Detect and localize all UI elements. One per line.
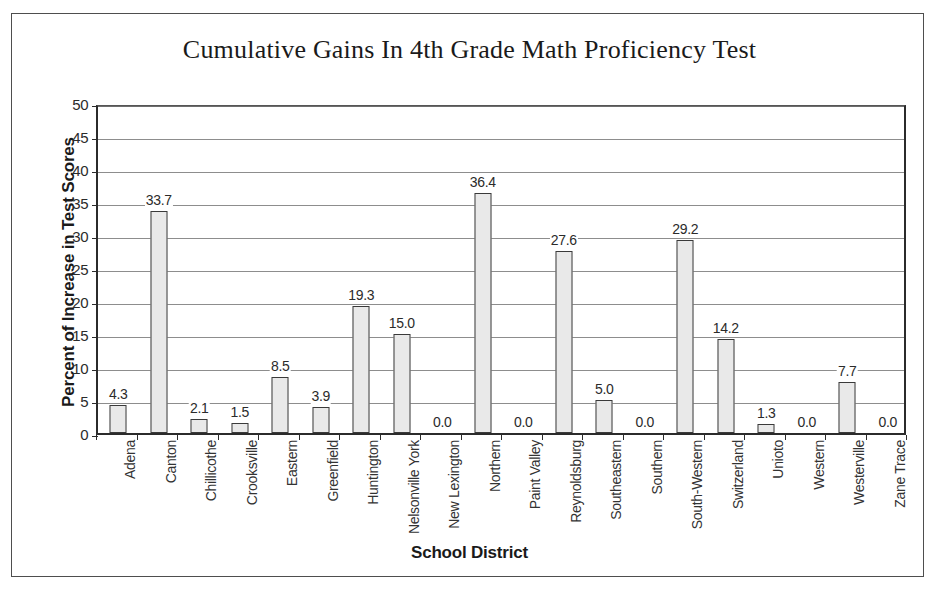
bar-group[interactable]: 0.0: [625, 106, 666, 433]
y-axis-tick-label: 25: [44, 261, 88, 278]
bar-value-label: 5.0: [594, 381, 615, 397]
bar-value-label: 36.4: [469, 174, 497, 190]
x-axis-category-label: New Lexington: [446, 440, 462, 560]
bar-group[interactable]: 5.0: [584, 106, 625, 433]
bar[interactable]: [474, 193, 491, 433]
x-axis-tick: [299, 435, 300, 440]
bar-group[interactable]: 1.5: [220, 106, 261, 433]
x-axis-category-label: Westerville: [851, 440, 867, 560]
bar-group[interactable]: 4.3: [98, 106, 139, 433]
x-axis-tick: [866, 435, 867, 440]
bar-value-label: 0.0: [432, 414, 453, 430]
y-axis-tick-label: 15: [44, 327, 88, 344]
x-axis-category-label: Chillicothe: [203, 440, 219, 560]
bar-value-label: 1.5: [229, 404, 250, 420]
x-axis-tick: [96, 435, 97, 440]
x-axis-tick: [542, 435, 543, 440]
x-axis-tick: [461, 435, 462, 440]
bar-group[interactable]: 29.2: [665, 106, 706, 433]
x-axis-tick: [623, 435, 624, 440]
y-axis-tick-label: 35: [44, 195, 88, 212]
bar[interactable]: [393, 334, 410, 433]
chart-title: Cumulative Gains In 4th Grade Math Profi…: [0, 35, 939, 65]
y-axis-tick-label: 50: [44, 96, 88, 113]
bar-value-label: 19.3: [347, 287, 375, 303]
x-axis-category-label: Southern: [649, 440, 665, 560]
y-axis-tick-label: 5: [44, 393, 88, 410]
x-axis-category-label: Reynoldsburg: [568, 440, 584, 560]
x-axis-category-label: Canton: [163, 440, 179, 560]
bar-group[interactable]: 3.9: [301, 106, 342, 433]
bar[interactable]: [312, 407, 329, 433]
bar-group[interactable]: 0.0: [868, 106, 909, 433]
bar[interactable]: [191, 419, 208, 433]
x-axis-tick: [744, 435, 745, 440]
x-axis-category-label: Adena: [122, 440, 138, 560]
bar-group[interactable]: 33.7: [139, 106, 180, 433]
x-axis-category-label: Southeastern: [608, 440, 624, 560]
bar-value-label: 15.0: [388, 315, 416, 331]
x-axis-category-label: Crooksville: [244, 440, 260, 560]
bar-value-label: 14.2: [712, 320, 740, 336]
bar-group[interactable]: 15.0: [382, 106, 423, 433]
bar-value-label: 27.6: [550, 232, 578, 248]
bar[interactable]: [839, 382, 856, 433]
bar-group[interactable]: 36.4: [463, 106, 504, 433]
bar-group[interactable]: 2.1: [179, 106, 220, 433]
bar-value-label: 29.2: [671, 221, 699, 237]
plot-area: 4.333.72.11.58.53.919.315.00.036.40.027.…: [96, 105, 906, 435]
x-axis-category-label: Huntington: [365, 440, 381, 560]
bar-value-label: 0.0: [634, 414, 655, 430]
bar-group[interactable]: 0.0: [787, 106, 828, 433]
bar[interactable]: [272, 377, 289, 433]
x-axis-tick: [501, 435, 502, 440]
bar[interactable]: [110, 405, 127, 433]
bar-group[interactable]: 19.3: [341, 106, 382, 433]
bar[interactable]: [353, 306, 370, 433]
bar-group[interactable]: 0.0: [422, 106, 463, 433]
bar[interactable]: [596, 400, 613, 433]
bar[interactable]: [758, 424, 775, 433]
x-axis-tick: [218, 435, 219, 440]
x-axis-tick: [177, 435, 178, 440]
chart-figure: Cumulative Gains In 4th Grade Math Profi…: [0, 0, 939, 593]
y-axis-tick-label: 10: [44, 360, 88, 377]
y-axis-tick-label: 0: [44, 426, 88, 443]
bar-value-label: 3.9: [310, 388, 331, 404]
bar-value-label: 8.5: [270, 358, 291, 374]
bar[interactable]: [717, 339, 734, 433]
bar-group[interactable]: 1.3: [746, 106, 787, 433]
y-axis-tick: [92, 436, 98, 437]
x-axis-category-label: South-Western: [689, 440, 705, 560]
x-axis-tick: [663, 435, 664, 440]
x-axis-category-label: Unioto: [770, 440, 786, 560]
x-axis-tick: [704, 435, 705, 440]
bar-group[interactable]: 7.7: [827, 106, 868, 433]
bar-value-label: 2.1: [189, 400, 210, 416]
bar[interactable]: [231, 423, 248, 433]
x-axis-tick: [380, 435, 381, 440]
bar[interactable]: [150, 211, 167, 433]
x-axis-tick: [258, 435, 259, 440]
x-axis-category-label: Switzerland: [730, 440, 746, 560]
x-axis-category-label: Paint Valley: [527, 440, 543, 560]
bar[interactable]: [677, 240, 694, 433]
x-axis-category-label: Nelsonville York: [406, 440, 422, 560]
x-axis-tick: [582, 435, 583, 440]
bar-value-label: 33.7: [145, 192, 173, 208]
bar-value-label: 0.0: [877, 414, 898, 430]
x-axis-tick: [137, 435, 138, 440]
y-axis-tick-label: 30: [44, 228, 88, 245]
bar[interactable]: [555, 251, 572, 433]
x-axis-category-label: Western: [811, 440, 827, 560]
y-axis-tick-label: 40: [44, 162, 88, 179]
bar-group[interactable]: 8.5: [260, 106, 301, 433]
x-axis-tick: [906, 435, 907, 440]
x-axis-tick: [825, 435, 826, 440]
bar-group[interactable]: 0.0: [503, 106, 544, 433]
bar-group[interactable]: 27.6: [544, 106, 585, 433]
x-axis-tick: [420, 435, 421, 440]
bar-value-label: 4.3: [108, 386, 129, 402]
bar-group[interactable]: 14.2: [706, 106, 747, 433]
x-axis-category-label: Eastern: [284, 440, 300, 560]
